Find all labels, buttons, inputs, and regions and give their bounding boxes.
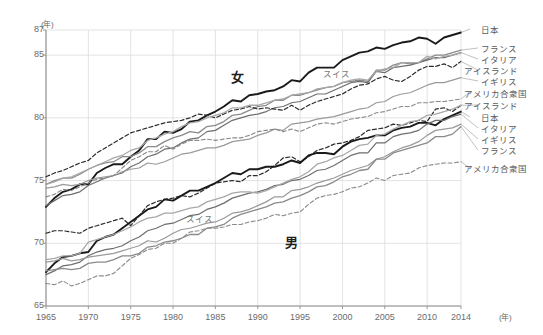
group-label: 女	[231, 67, 244, 86]
legend-label-male[interactable]: フランス	[481, 144, 517, 156]
series-line-female-3	[46, 61, 461, 176]
legend-leader-line	[461, 29, 470, 33]
legend-label-female[interactable]: 日本	[481, 23, 499, 35]
legend-label-female[interactable]: アメリカ合衆国	[464, 87, 527, 99]
legend-leader-line	[461, 53, 478, 59]
series-line-male-9	[46, 114, 461, 275]
series-line-female-1	[46, 50, 461, 184]
series-line-female-6	[46, 53, 461, 185]
legend-leader-line	[461, 112, 470, 117]
plot-canvas	[0, 0, 543, 335]
legend-leader-line	[461, 48, 478, 50]
legend-label-female[interactable]: イギリス	[481, 75, 517, 87]
legend-label-male[interactable]: アイスランド	[464, 99, 518, 111]
legend-label-male[interactable]: アメリカ合衆国	[464, 162, 527, 174]
series-line-female-5	[46, 99, 461, 197]
legend-leader-line	[461, 78, 478, 81]
inline-series-label: スイス	[186, 212, 213, 224]
inline-series-label: スイス	[323, 67, 350, 79]
group-label: 男	[285, 232, 298, 251]
life-expectancy-chart: (年) (年) 878580757065 1965197019751980198…	[0, 0, 543, 335]
legend-leader-line	[461, 127, 478, 150]
